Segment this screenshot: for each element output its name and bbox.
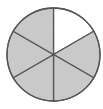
fraction-circle-diagram [0,0,103,109]
